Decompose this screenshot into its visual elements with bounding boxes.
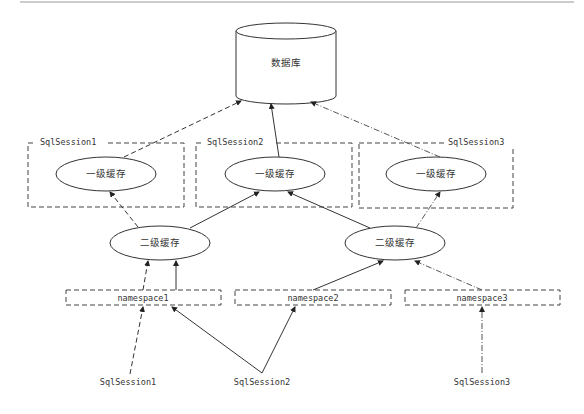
- arrow-client2-namespace1: [172, 307, 262, 373]
- session-box-2: SqlSession2 一级缓存: [196, 137, 352, 207]
- session-box-1: SqlSession1 一级缓存: [28, 137, 184, 207]
- database-node: 数据库: [236, 23, 336, 104]
- second-level-cache-1: 二级缓存: [110, 226, 210, 260]
- svg-text:namespace3: namespace3: [456, 293, 507, 303]
- arrow-l1cache2-database: [271, 104, 279, 157]
- namespace-box-3: namespace3: [405, 290, 560, 305]
- arrow-l2cache2-l1cache2: [288, 192, 370, 228]
- arrow-l1cache3-database: [311, 102, 440, 157]
- svg-text:一级缓存: 一级缓存: [255, 168, 295, 179]
- svg-text:namespace2: namespace2: [287, 293, 338, 303]
- arrow-l2cache1-l1cache2: [190, 192, 259, 228]
- session-box-label: SqlSession3: [448, 137, 504, 147]
- namespace-box-1: namespace1: [66, 290, 221, 305]
- second-level-cache-2: 二级缓存: [345, 226, 445, 260]
- mybatis-cache-diagram: 数据库 SqlSession1 一级缓存 SqlSession2 一级缓存 Sq…: [0, 0, 584, 414]
- svg-text:一级缓存: 一级缓存: [416, 168, 456, 179]
- arrow-namespace3-l2cache2: [415, 261, 482, 290]
- arrow-l2cache2-l1cache3: [416, 192, 440, 228]
- arrow-l2cache1-l1cache1: [110, 192, 138, 227]
- svg-text:二级缓存: 二级缓存: [375, 237, 415, 248]
- session-box-label: SqlSession1: [40, 137, 96, 147]
- svg-text:二级缓存: 二级缓存: [140, 237, 180, 248]
- arrow-client1-namespace1: [130, 307, 143, 374]
- svg-text:一级缓存: 一级缓存: [86, 168, 126, 179]
- client-label-3: SqlSession3: [454, 377, 510, 387]
- client-label-1: SqlSession1: [100, 377, 156, 387]
- database-label: 数据库: [271, 57, 301, 68]
- client-label-2: SqlSession2: [234, 377, 290, 387]
- arrow-namespace2-l2cache2: [313, 261, 383, 290]
- arrow-client2-namespace2: [262, 307, 295, 373]
- arrow-l1cache1-database: [124, 101, 241, 157]
- session-box-label: SqlSession2: [207, 137, 263, 147]
- namespace-box-2: namespace2: [235, 290, 391, 305]
- arrow-namespace1-l2cache1-a: [143, 261, 148, 290]
- svg-text:namespace1: namespace1: [117, 293, 168, 303]
